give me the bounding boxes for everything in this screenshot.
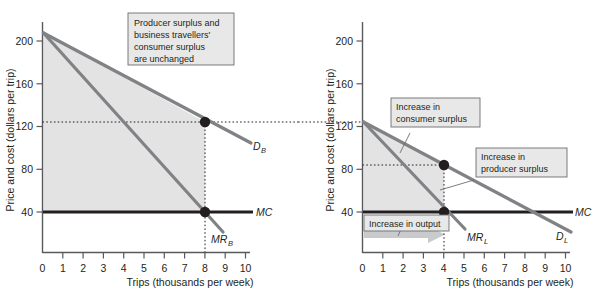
demand-curve-label-sub: L bbox=[564, 236, 568, 245]
x-tick-label-8: 8 bbox=[202, 262, 208, 274]
y-tick-label-80: 80 bbox=[21, 163, 33, 175]
x-axis-ticks bbox=[383, 253, 566, 259]
demand-curve-label: D bbox=[253, 140, 261, 152]
y-tick-label-120: 120 bbox=[15, 120, 33, 132]
y-tick-label-40: 40 bbox=[21, 206, 33, 218]
x-tick-label-3: 3 bbox=[420, 262, 426, 274]
x-tick-label-2: 2 bbox=[400, 262, 406, 274]
mr-equals-mc-point bbox=[200, 207, 210, 217]
y-axis-ticks bbox=[37, 41, 43, 212]
price-discrimination-figure: 40 80 120 160 200 0 1 2 3 4 5 6 7 8 9 10… bbox=[0, 0, 596, 290]
y-tick-label-120: 120 bbox=[335, 120, 353, 132]
callout-line-3: consumer surplus bbox=[134, 42, 206, 52]
demand-curve-label: D bbox=[556, 230, 564, 242]
y-tick-label-200: 200 bbox=[335, 35, 353, 47]
y-tick-label-160: 160 bbox=[15, 78, 33, 90]
x-tick-label-4: 4 bbox=[121, 262, 127, 274]
right-panel-plot: 40 80 120 160 200 0 1 2 3 4 5 6 7 8 9 10… bbox=[298, 0, 596, 290]
consumer-surplus-callout: Increase in consumer surplus bbox=[391, 98, 480, 127]
panel-leisure-travellers: 40 80 120 160 200 0 1 2 3 4 5 6 7 8 9 10… bbox=[298, 0, 596, 290]
x-tick-label-1: 1 bbox=[60, 262, 66, 274]
x-tick-label-5: 5 bbox=[461, 262, 467, 274]
output-callout: Increase in output bbox=[364, 215, 449, 231]
x-tick-label-7: 7 bbox=[502, 262, 508, 274]
consumer-surplus-callout-line-2: consumer surplus bbox=[396, 114, 468, 124]
x-tick-label-8: 8 bbox=[522, 262, 528, 274]
marginal-revenue-label-sub: L bbox=[484, 237, 488, 246]
marginal-revenue-label-sub: B bbox=[228, 239, 233, 248]
price-quantity-point bbox=[200, 117, 210, 127]
surplus-unchanged-callout: Producer surplus and business travellers… bbox=[128, 13, 234, 65]
x-axis-title: Trips (thousands per week) bbox=[127, 276, 254, 288]
x-tick-label-10: 10 bbox=[560, 262, 572, 274]
x-axis-title: Trips (thousands per week) bbox=[447, 276, 574, 288]
x-tick-label-7: 7 bbox=[182, 262, 188, 274]
x-tick-label-3: 3 bbox=[100, 262, 106, 274]
left-panel-plot: 40 80 120 160 200 0 1 2 3 4 5 6 7 8 9 10… bbox=[0, 0, 298, 290]
x-tick-label-4: 4 bbox=[441, 262, 447, 274]
x-tick-label-5: 5 bbox=[141, 262, 147, 274]
y-tick-label-160: 160 bbox=[335, 78, 353, 90]
producer-surplus-callout: Increase in producer surplus bbox=[476, 148, 567, 177]
output-callout-line-1: Increase in output bbox=[369, 219, 441, 229]
panel-business-travellers: 40 80 120 160 200 0 1 2 3 4 5 6 7 8 9 10… bbox=[0, 0, 298, 290]
y-axis-title: Price and cost (dollars per trip) bbox=[4, 69, 16, 212]
marginal-revenue-label: MR bbox=[211, 233, 228, 245]
callout-line-2: business travellers' bbox=[134, 30, 211, 40]
y-tick-label-80: 80 bbox=[341, 163, 353, 175]
marginal-revenue-label: MR bbox=[467, 231, 484, 243]
marginal-revenue-label-group: MR L bbox=[467, 231, 488, 246]
price-quantity-point bbox=[439, 160, 449, 170]
consumer-surplus-callout-line-1: Increase in bbox=[396, 102, 440, 112]
x-tick-label-10: 10 bbox=[240, 262, 252, 274]
demand-curve-label-sub: B bbox=[261, 146, 266, 155]
marginal-revenue-label-group: MR B bbox=[211, 233, 233, 248]
callout-line-1: Producer surplus and bbox=[134, 18, 220, 28]
x-tick-label-9: 9 bbox=[222, 262, 228, 274]
x-tick-label-0: 0 bbox=[360, 262, 366, 274]
marginal-cost-label: MC bbox=[575, 206, 592, 218]
y-tick-label-200: 200 bbox=[15, 35, 33, 47]
x-tick-label-9: 9 bbox=[542, 262, 548, 274]
x-tick-label-2: 2 bbox=[80, 262, 86, 274]
producer-surplus-callout-line-2: producer surplus bbox=[481, 164, 549, 174]
x-tick-label-6: 6 bbox=[481, 262, 487, 274]
y-axis-title: Price and cost (dollars per trip) bbox=[324, 69, 336, 212]
x-tick-label-6: 6 bbox=[161, 262, 167, 274]
producer-surplus-callout-line-1: Increase in bbox=[481, 152, 525, 162]
producer-surplus-leader-line bbox=[440, 180, 474, 190]
x-tick-label-1: 1 bbox=[380, 262, 386, 274]
callout-line-4: are unchanged bbox=[134, 54, 194, 64]
y-axis-ticks bbox=[357, 41, 363, 212]
marginal-cost-label: MC bbox=[256, 206, 273, 218]
x-axis-ticks bbox=[63, 253, 246, 259]
x-tick-label-0: 0 bbox=[40, 262, 46, 274]
y-tick-label-40: 40 bbox=[341, 206, 353, 218]
demand-curve-label-group: D B bbox=[253, 140, 266, 155]
demand-curve-label-group: D L bbox=[556, 230, 568, 245]
